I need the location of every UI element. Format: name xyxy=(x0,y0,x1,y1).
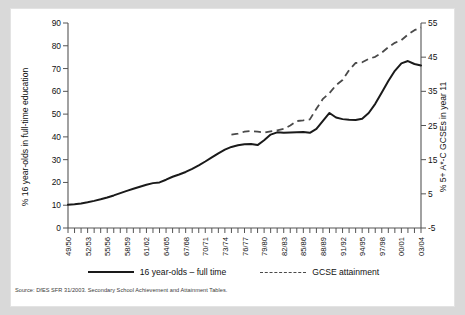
x-tick-label: 03/04 xyxy=(417,237,426,256)
legend-item-solid: 16 year-olds – full time xyxy=(88,267,226,277)
x-tick-label: 97/98 xyxy=(378,237,387,256)
chart-figure: 0102030405060708090 -551525354555 49/505… xyxy=(10,8,455,307)
x-tick-label: 88/89 xyxy=(319,237,328,256)
series-line-gcse-attainment xyxy=(231,27,421,134)
left-tick-label: 60 xyxy=(52,86,62,96)
x-tick-label: 79/80 xyxy=(260,237,269,256)
line-chart: 0102030405060708090 -551525354555 49/505… xyxy=(11,9,456,259)
right-tick-label: 55 xyxy=(428,18,438,28)
x-axis: 49/5052/5355/5658/5961/6264/6567/6870/71… xyxy=(64,228,426,256)
x-tick-label: 70/71 xyxy=(201,237,210,256)
legend-swatch-solid-line xyxy=(88,271,134,273)
left-tick-label: 80 xyxy=(52,41,62,51)
x-tick-label: 52/53 xyxy=(84,237,93,256)
left-axis: 0102030405060708090 xyxy=(52,18,68,233)
x-tick-label: 49/50 xyxy=(64,237,73,256)
x-tick-label: 82/83 xyxy=(280,237,289,256)
chart-legend: 16 year-olds – full time GCSE attainment xyxy=(11,261,456,283)
x-tick-label: 73/74 xyxy=(221,237,230,256)
x-tick-label: 94/95 xyxy=(358,237,367,256)
left-tick-label: 30 xyxy=(52,155,62,165)
legend-item-dashed: GCSE attainment xyxy=(260,267,379,277)
right-tick-label: 25 xyxy=(428,121,438,131)
series-line-full-time xyxy=(68,61,421,205)
right-axis-title: % 5+ A*-C GCSEs in year 11 xyxy=(438,82,448,193)
x-tick-label: 76/77 xyxy=(241,237,250,256)
x-tick-label: 64/65 xyxy=(162,237,171,256)
x-tick-label: 00/01 xyxy=(397,237,406,256)
right-tick-label: 15 xyxy=(428,155,438,165)
x-tick-label: 91/92 xyxy=(339,237,348,256)
x-tick-label: 67/68 xyxy=(182,237,191,256)
legend-label-gcse-attainment: GCSE attainment xyxy=(312,267,379,277)
right-tick-label: -5 xyxy=(428,223,436,233)
left-tick-label: 10 xyxy=(52,200,62,210)
left-tick-label: 70 xyxy=(52,64,62,74)
right-tick-label: 35 xyxy=(428,86,438,96)
right-axis: -551525354555 xyxy=(421,18,438,233)
left-axis-title: % 16 year-olds in full-time education xyxy=(20,68,30,207)
left-tick-label: 50 xyxy=(52,109,62,119)
x-tick-label: 58/59 xyxy=(123,237,132,256)
x-tick-label: 85/86 xyxy=(299,237,308,256)
left-tick-label: 20 xyxy=(52,177,62,187)
legend-label-full-time: 16 year-olds – full time xyxy=(140,267,226,277)
legend-swatch-dashed-line xyxy=(260,272,306,273)
plot-area: 0102030405060708090 -551525354555 49/505… xyxy=(11,9,456,259)
right-tick-label: 5 xyxy=(428,189,433,199)
left-tick-label: 90 xyxy=(52,18,62,28)
right-tick-label: 45 xyxy=(428,52,438,62)
x-tick-label: 55/56 xyxy=(103,237,112,256)
data-series xyxy=(68,27,421,204)
source-note: Source: DfES SFR 31/2003. Secondary Scho… xyxy=(15,287,445,293)
left-tick-label: 40 xyxy=(52,132,62,142)
x-tick-label: 61/62 xyxy=(142,237,151,256)
left-tick-label: 0 xyxy=(56,223,61,233)
